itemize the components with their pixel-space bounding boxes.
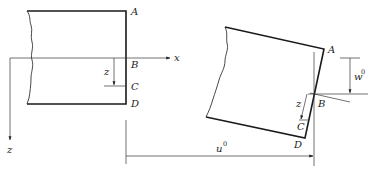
deformation-diagram: x z z A B C D w 0 u 0 z A [0, 0, 369, 170]
deformed-local-z-label: z [295, 98, 302, 109]
u0-superscript: 0 [223, 140, 227, 148]
deformed-label-C: C [297, 121, 305, 132]
w0-superscript: 0 [361, 68, 365, 76]
right-local-z: z [295, 94, 309, 120]
left-point-labels: A B C D [130, 6, 139, 109]
label-C: C [131, 81, 139, 92]
deformed-label-A: A [327, 44, 335, 55]
left-local-z: z [103, 58, 126, 86]
deformed-break-line [206, 27, 228, 117]
local-z-label: z [103, 66, 110, 77]
x-axis-label: x [174, 52, 180, 63]
deformed-local-z-arrow [301, 94, 307, 119]
label-B: B [130, 59, 138, 70]
w0-displacement: w 0 [350, 58, 365, 93]
deformed-section [206, 27, 324, 138]
deformed-outline [206, 27, 324, 138]
deformed-label-D: D [293, 139, 302, 150]
undeformed-section [27, 11, 126, 104]
section-outline [27, 11, 126, 104]
break-line [27, 11, 33, 104]
reference-lines [308, 52, 368, 166]
u0-symbol: u [216, 143, 222, 154]
u0-displacement: u 0 [126, 120, 313, 164]
label-A: A [130, 6, 138, 17]
z-axis-label: z [6, 144, 13, 155]
label-D: D [130, 98, 139, 109]
deformed-label-B: B [317, 98, 325, 109]
